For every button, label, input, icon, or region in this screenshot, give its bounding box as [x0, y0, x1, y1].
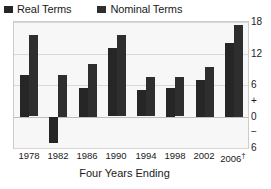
bar-nominal-terms — [88, 64, 97, 117]
y-axis-tick-label: 18 — [251, 17, 262, 27]
bar-real-terms — [137, 90, 146, 116]
bar-group — [102, 22, 131, 148]
y-axis-tick-label: 0 — [251, 112, 257, 122]
x-axis-tick-label: 1990 — [105, 151, 126, 161]
y-axis-sign-marker: − — [251, 127, 257, 137]
y-axis-tick-label: 6 — [251, 80, 257, 90]
x-axis-title: Four Years Ending — [0, 167, 249, 179]
bar-nominal-terms — [58, 75, 67, 117]
bar-real-terms — [20, 75, 29, 117]
bar-real-terms — [196, 80, 205, 117]
bar-nominal-terms — [205, 67, 214, 117]
bar-nominal-terms — [234, 25, 243, 117]
x-axis-tick-label: 1978 — [18, 151, 39, 161]
bar-real-terms — [225, 43, 234, 117]
bar-group — [131, 22, 160, 148]
x-axis-tick-label: 1982 — [47, 151, 68, 161]
chart-plot-area — [14, 22, 248, 148]
y-axis-sign-marker: + — [251, 96, 257, 106]
bar-real-terms — [49, 117, 58, 143]
chart-legend: Real Terms Nominal Terms — [0, 0, 271, 18]
bar-group — [14, 22, 43, 148]
x-axis-tick-label: 2006† — [220, 151, 246, 164]
bar-real-terms — [79, 88, 88, 117]
y-axis-tick-label: 12 — [251, 49, 262, 59]
bar-nominal-terms — [175, 77, 184, 116]
bar-group — [190, 22, 219, 148]
x-axis-tick-label: 1998 — [164, 151, 185, 161]
legend-label-real-terms: Real Terms — [17, 4, 71, 15]
bar-group — [160, 22, 189, 148]
bar-nominal-terms — [29, 35, 38, 116]
bar-nominal-terms — [117, 35, 126, 116]
chart-plot-frame — [13, 21, 249, 149]
x-axis-tick-label: 1986 — [76, 151, 97, 161]
legend-label-nominal-terms: Nominal Terms — [110, 4, 182, 15]
x-axis-tick-label: 1994 — [135, 151, 156, 161]
bar-group — [73, 22, 102, 148]
bar-real-terms — [166, 88, 175, 117]
gridline — [14, 148, 248, 149]
legend-item-real-terms: Real Terms — [4, 0, 71, 18]
legend-swatch-icon — [4, 6, 13, 13]
bar-real-terms — [108, 48, 117, 116]
bar-group — [219, 22, 248, 148]
x-axis-tick-label: 2002 — [193, 151, 214, 161]
bar-group — [43, 22, 72, 148]
legend-item-nominal-terms: Nominal Terms — [97, 0, 182, 18]
x-axis: 19781982198619901994199820022006† — [0, 151, 271, 165]
legend-swatch-icon — [97, 6, 106, 13]
bar-nominal-terms — [146, 77, 155, 116]
